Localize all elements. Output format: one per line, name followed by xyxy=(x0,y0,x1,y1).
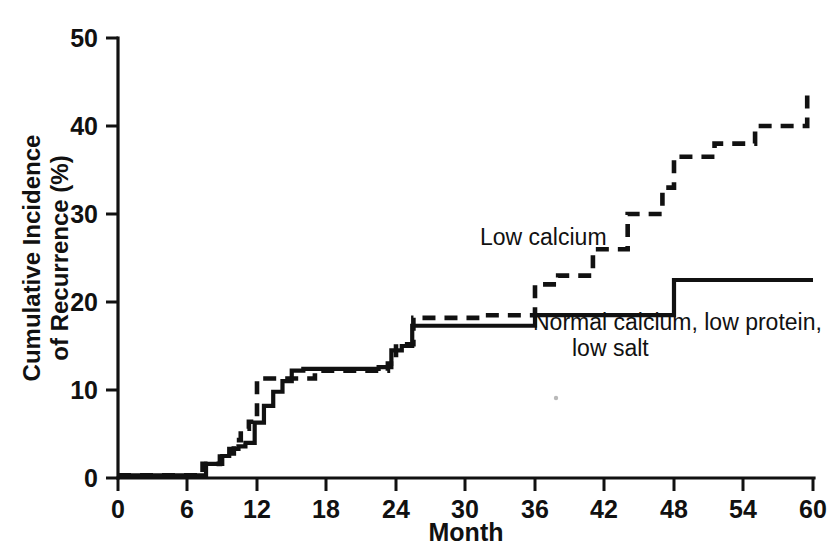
x-tick-label-24: 24 xyxy=(382,495,410,523)
x-tick-label-42: 42 xyxy=(590,495,618,523)
y-tick-group: 0 10 20 30 40 50 xyxy=(70,24,118,492)
x-tick-label-0: 0 xyxy=(111,495,125,523)
figure-container: 0 10 20 30 40 50 0 6 12 18 24 30 3 xyxy=(0,0,836,546)
x-tick-label-6: 6 xyxy=(180,495,194,523)
y-tick-label-40: 40 xyxy=(70,112,98,140)
cumulative-incidence-chart: 0 10 20 30 40 50 0 6 12 18 24 30 3 xyxy=(0,0,836,546)
y-tick-label-50: 50 xyxy=(70,24,98,52)
x-tick-label-36: 36 xyxy=(521,495,549,523)
y-axis-title-line2: of Recurrence (%) xyxy=(46,155,73,360)
series-line-low-calcium xyxy=(118,95,813,475)
y-axis-title: Cumulative Incidence of Recurrence (%) xyxy=(18,135,73,382)
annotation-normal-calcium-line1: Normal calcium, low protein, xyxy=(533,309,822,335)
x-tick-group: 0 6 12 18 24 30 36 42 48 54 60 xyxy=(111,478,827,523)
y-tick-label-20: 20 xyxy=(70,288,98,316)
y-tick-label-0: 0 xyxy=(84,464,98,492)
scan-speck xyxy=(554,396,558,400)
x-tick-label-60: 60 xyxy=(799,495,827,523)
axes-group xyxy=(118,38,814,478)
x-tick-label-12: 12 xyxy=(243,495,271,523)
y-tick-label-10: 10 xyxy=(70,376,98,404)
y-tick-label-30: 30 xyxy=(70,200,98,228)
x-axis-title: Month xyxy=(429,518,504,546)
annotation-low-calcium: Low calcium xyxy=(480,224,607,250)
x-tick-label-18: 18 xyxy=(312,495,340,523)
annotation-normal-calcium-line2: low salt xyxy=(572,335,649,361)
x-tick-label-48: 48 xyxy=(660,495,688,523)
x-tick-label-54: 54 xyxy=(729,495,757,523)
y-axis-title-line1: Cumulative Incidence xyxy=(18,135,45,382)
